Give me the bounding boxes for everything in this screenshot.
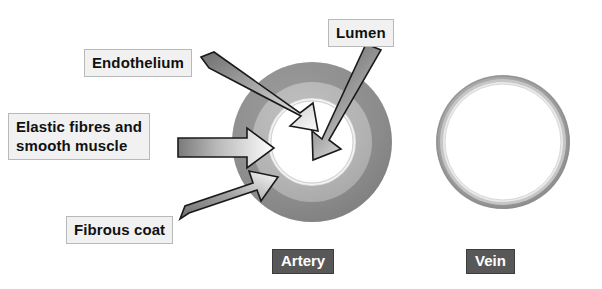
callout-endothelium[interactable]: Endothelium xyxy=(84,49,192,77)
fibrous-arrow xyxy=(180,171,278,219)
callout-lumen[interactable]: Lumen xyxy=(328,19,394,47)
callout-fibrous-coat[interactable]: Fibrous coat xyxy=(66,216,173,244)
nametag-vein-text: Vein xyxy=(475,252,506,269)
nametag-vein[interactable]: Vein xyxy=(466,249,515,274)
callout-elastic-text-line2: smooth muscle xyxy=(16,136,142,155)
vein-lumen xyxy=(445,84,561,200)
fibrous-arrow-body xyxy=(180,171,278,219)
callout-endothelium-text: Endothelium xyxy=(92,53,184,72)
callout-fibrous-coat-text: Fibrous coat xyxy=(74,220,165,239)
vein-cross-section xyxy=(436,75,570,209)
nametag-artery-text: Artery xyxy=(281,252,325,269)
callout-lumen-text: Lumen xyxy=(336,23,386,42)
callout-elastic-fibres-and-smooth-muscle[interactable]: Elastic fibres and smooth muscle xyxy=(8,113,150,160)
diagram-canvas: Endothelium Elastic fibres and smooth mu… xyxy=(0,0,602,289)
nametag-artery[interactable]: Artery xyxy=(272,249,334,274)
callout-elastic-text-line1: Elastic fibres and xyxy=(16,117,142,136)
